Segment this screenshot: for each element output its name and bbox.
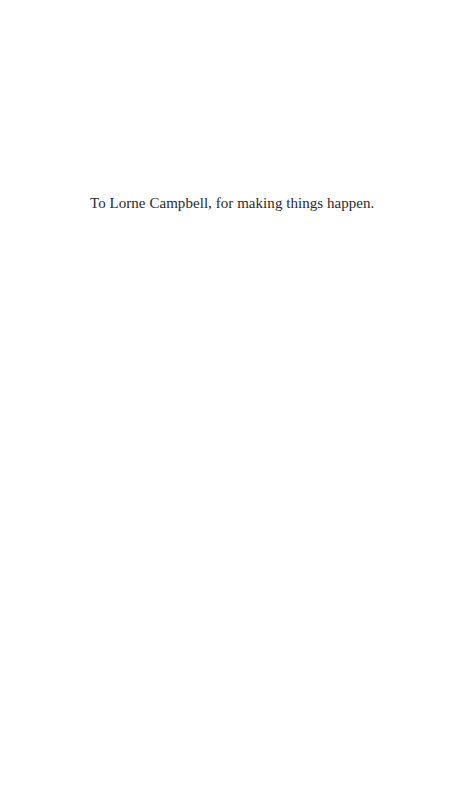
book-page: To Lorne Campbell, for making things hap… [0,0,466,785]
dedication-text: To Lorne Campbell, for making things hap… [90,195,374,212]
